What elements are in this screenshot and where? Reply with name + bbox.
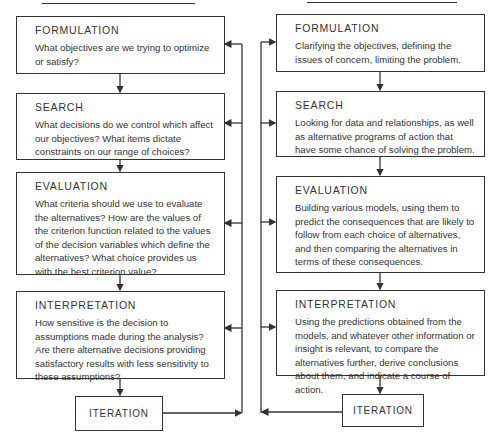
right-interpretation-title: INTERPRETATION (295, 298, 396, 310)
left-interpretation-text: How sensitive is the decision to assumpt… (35, 316, 216, 384)
right-interpretation-text: Using the predictions obtained from the … (295, 315, 476, 396)
left-formulation-title: FORMULATION (35, 24, 119, 36)
right-interpretation-box: INTERPRETATION Using the predictions obt… (276, 290, 485, 376)
left-search-title: SEARCH (35, 101, 84, 113)
right-search-text: Looking for data and relationships, as w… (295, 116, 476, 157)
right-evaluation-text: Building various models, using them to p… (295, 201, 476, 269)
right-formulation-title: FORMULATION (295, 22, 379, 34)
right-evaluation-box: EVALUATION Building various models, usin… (276, 176, 485, 273)
right-iteration-box: ITERATION (342, 394, 424, 427)
left-evaluation-title: EVALUATION (35, 180, 108, 192)
right-search-title: SEARCH (295, 99, 344, 111)
left-evaluation-text: What criteria should we use to evaluate … (35, 197, 216, 278)
right-formulation-box: FORMULATION Clarifying the objectives, d… (276, 14, 485, 72)
left-interpretation-box: INTERPRETATION How sensitive is the deci… (16, 291, 225, 379)
left-iteration-box: ITERATION (75, 396, 163, 431)
right-search-box: SEARCH Looking for data and relationship… (276, 91, 485, 157)
right-evaluation-title: EVALUATION (295, 184, 368, 196)
left-interpretation-title: INTERPRETATION (35, 299, 136, 311)
right-formulation-text: Clarifying the objectives, defining the … (295, 39, 476, 66)
left-formulation-box: FORMULATION What objectives are we tryin… (16, 16, 225, 74)
left-search-box: SEARCH What decisions do we control whic… (16, 93, 225, 160)
left-search-text: What decisions do we control which affec… (35, 118, 216, 159)
left-evaluation-box: EVALUATION What criteria should we use t… (16, 172, 225, 275)
left-formulation-text: What objectives are we trying to optimiz… (35, 41, 216, 68)
